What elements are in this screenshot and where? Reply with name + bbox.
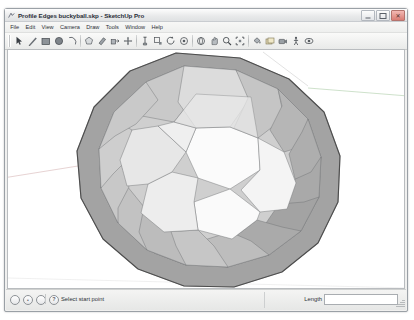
paint-bucket-icon[interactable] (250, 34, 263, 48)
window-controls: ✕ (361, 10, 405, 21)
status-divider (45, 294, 46, 304)
close-icon: ✕ (396, 13, 401, 18)
tape-measure-icon[interactable] (138, 34, 151, 48)
menu-item-edit[interactable]: Edit (22, 22, 38, 32)
measurement-box[interactable] (324, 294, 398, 305)
menu-item-view[interactable]: View (38, 22, 56, 32)
buckyball-solid (77, 53, 340, 287)
select-arrow-icon[interactable] (13, 34, 26, 48)
model-canvas[interactable] (8, 50, 404, 288)
push-pull-icon[interactable] (108, 34, 121, 48)
eraser-icon[interactable] (95, 34, 108, 48)
rotate-icon[interactable] (164, 34, 177, 48)
toolbar-grip[interactable] (8, 35, 11, 47)
measurement-input[interactable] (325, 302, 397, 311)
sketchup-window: Profile Edges buckyball.skp - SketchUp P… (4, 8, 408, 312)
sketchup-app-icon (8, 12, 15, 19)
components-icon[interactable] (263, 34, 276, 48)
window-title: Profile Edges buckyball.skp - SketchUp P… (18, 11, 144, 21)
status-separator (264, 292, 265, 308)
title-bar[interactable]: Profile Edges buckyball.skp - SketchUp P… (5, 9, 407, 22)
menu-item-window[interactable]: Window (122, 22, 148, 32)
move-icon[interactable] (121, 34, 134, 48)
resize-grip[interactable] (394, 298, 405, 309)
menu-bar: File Edit View Camera Draw Tools Window … (5, 22, 407, 33)
position-camera-icon[interactable] (276, 34, 289, 48)
main-toolbar (5, 33, 407, 50)
minimize-button[interactable] (361, 10, 375, 21)
orbit-icon[interactable] (194, 34, 207, 48)
zoom-extents-icon[interactable] (233, 34, 246, 48)
circle-icon[interactable] (52, 34, 65, 48)
status-indicator-group: • (10, 295, 46, 305)
polygon-icon[interactable] (82, 34, 95, 48)
help-icon-glyph: ? (52, 297, 55, 303)
menu-item-draw[interactable]: Draw (83, 22, 102, 32)
status-circle-1[interactable] (10, 295, 20, 305)
pan-icon[interactable] (207, 34, 220, 48)
menu-item-file[interactable]: File (7, 22, 22, 32)
close-button[interactable]: ✕ (391, 10, 405, 21)
look-around-icon[interactable] (302, 34, 315, 48)
rectangle-icon[interactable] (39, 34, 52, 48)
buckyball-model (8, 50, 404, 288)
zoom-icon[interactable] (220, 34, 233, 48)
arc-icon[interactable] (65, 34, 78, 48)
menu-item-camera[interactable]: Camera (57, 22, 83, 32)
walk-icon[interactable] (289, 34, 302, 48)
menu-item-tools[interactable]: Tools (103, 22, 122, 32)
drawing-viewport[interactable] (7, 49, 405, 289)
scale-icon[interactable] (151, 34, 164, 48)
measurement-label: Length (304, 295, 322, 303)
menu-item-help[interactable]: Help (148, 22, 166, 32)
status-circle-2-glyph: • (27, 297, 29, 302)
help-icon[interactable]: ? (49, 295, 59, 305)
status-bar: • ? Select start point Length (6, 289, 406, 310)
status-prompt: Select start point (61, 295, 104, 303)
maximize-button[interactable] (376, 10, 390, 21)
line-pencil-icon[interactable] (26, 34, 39, 48)
follow-me-icon[interactable] (177, 34, 190, 48)
status-circle-2[interactable]: • (23, 295, 33, 305)
